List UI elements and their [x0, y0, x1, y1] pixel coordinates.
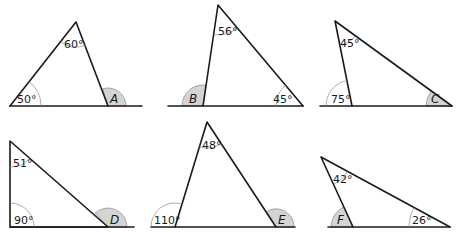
angle-label-56: 56° — [218, 25, 238, 38]
angle-label-45-c: 45° — [340, 37, 360, 50]
unknown-label-a: A — [109, 92, 118, 106]
triangle-f: 42° 26° F — [321, 157, 450, 227]
angle-label-42: 42° — [333, 173, 353, 186]
triangle-e: 110° 48° E — [151, 122, 295, 227]
unknown-label-e: E — [278, 213, 286, 227]
triangle-b-sides — [203, 5, 303, 106]
unknown-label-b: B — [189, 92, 197, 106]
unknown-label-f: F — [337, 213, 345, 227]
unknown-label-d: D — [110, 213, 119, 227]
angle-label-110: 110° — [154, 214, 181, 227]
angle-label-90: 90° — [14, 214, 34, 227]
angle-label-45-b: 45° — [273, 93, 293, 106]
angle-label-75: 75° — [331, 93, 351, 106]
triangle-d: 51° 90° D — [10, 141, 134, 227]
triangle-b: 56° 45° B — [168, 5, 303, 106]
angle-label-48: 48° — [202, 139, 222, 152]
angle-label-51: 51° — [13, 157, 33, 170]
angle-label-26: 26° — [412, 214, 432, 227]
unknown-label-c: C — [431, 92, 440, 106]
triangle-angles-figure: 50° 60° A 56° 45° B 45° 75° C 51° 90° D — [0, 0, 461, 242]
angle-label-50: 50° — [17, 93, 37, 106]
triangle-c: 45° 75° C — [320, 21, 452, 106]
triangle-a: 50° 60° A — [10, 22, 142, 106]
angle-label-60: 60° — [64, 38, 84, 51]
triangle-e-sides — [175, 122, 276, 227]
